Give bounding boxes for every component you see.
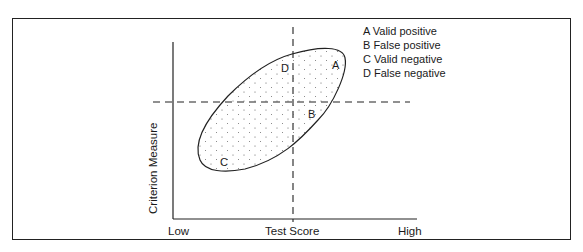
legend-item-b: B False positive xyxy=(363,38,446,52)
legend-item-a: A Valid positive xyxy=(363,24,446,38)
region-a-label: A xyxy=(332,59,339,71)
y-axis-label: Criterion Measure xyxy=(147,123,159,214)
region-b-label: B xyxy=(308,108,315,120)
region-d-label: D xyxy=(281,62,289,74)
x-axis-label: Test Score xyxy=(265,225,319,238)
legend-item-d: D False negative xyxy=(363,66,446,80)
scatter-envelope xyxy=(198,48,346,171)
x-axis-high-label: High xyxy=(398,225,422,238)
scatter-diagram xyxy=(0,0,583,252)
region-c-label: C xyxy=(220,156,228,168)
x-axis-low-label: Low xyxy=(168,225,189,238)
legend: A Valid positive B False positive C Vali… xyxy=(363,24,446,80)
legend-item-c: C Valid negative xyxy=(363,52,446,66)
